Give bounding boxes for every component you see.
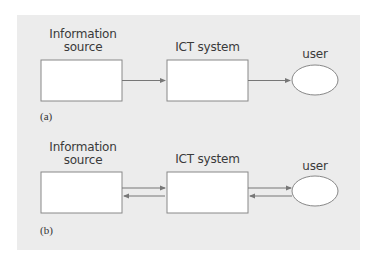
diagram-a <box>41 60 338 101</box>
ict-system-label-b: ICT system <box>160 153 255 166</box>
user-label-b: user <box>295 160 335 173</box>
user-label-a: user <box>295 48 335 61</box>
user-ellipse-b <box>292 176 338 206</box>
label-line-2: source <box>38 154 128 167</box>
ict-system-box-a <box>167 60 248 101</box>
user-ellipse-a <box>292 65 338 95</box>
info-source-label-a: Information source <box>38 28 128 54</box>
info-source-label-b: Information source <box>38 141 128 167</box>
label-line-2: source <box>38 41 128 54</box>
ict-system-label-a: ICT system <box>160 41 255 54</box>
caption-b: (b) <box>40 224 53 236</box>
ict-system-box-b <box>167 172 248 213</box>
info-source-box-a <box>41 60 122 101</box>
caption-a: (a) <box>40 110 52 122</box>
diagram-b <box>41 172 338 213</box>
info-source-box-b <box>41 172 122 213</box>
